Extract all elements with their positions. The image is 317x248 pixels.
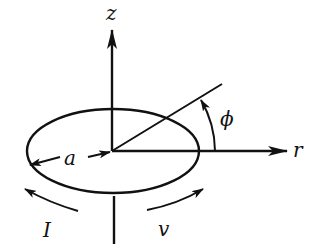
- r-axis-label: r: [293, 138, 304, 162]
- current-label: I: [42, 218, 52, 242]
- current-loop-diagram: z r ϕ a I v: [0, 0, 317, 248]
- radius-label: a: [64, 146, 76, 170]
- velocity-label: v: [158, 217, 170, 241]
- current-arrow: [25, 189, 78, 211]
- radius-arrow-left: [30, 157, 60, 165]
- radius-arrow-right: [88, 152, 110, 157]
- phi-reference-line: [112, 84, 222, 151]
- z-axis-label: z: [105, 1, 117, 25]
- phi-label: ϕ: [220, 107, 234, 131]
- phi-arc: [201, 100, 215, 151]
- velocity-arrow: [147, 189, 203, 210]
